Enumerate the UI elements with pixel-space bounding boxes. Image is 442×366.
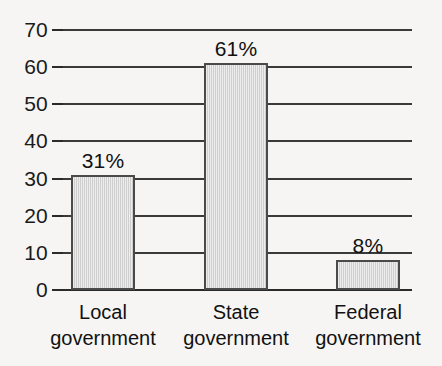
y-tick-mark xyxy=(52,66,63,68)
y-tick-label: 40 xyxy=(0,130,48,151)
y-tick-label: 20 xyxy=(0,205,48,226)
y-tick-label: 10 xyxy=(0,242,48,263)
bar-chart: 70 60 50 40 30 20 10 0 xyxy=(0,0,442,366)
y-tick-label: 70 xyxy=(0,19,48,40)
y-tick-label: 30 xyxy=(0,168,48,189)
y-tick-label: 60 xyxy=(0,56,48,77)
y-tick-mark xyxy=(52,215,63,217)
bar-value-state-government: 61% xyxy=(204,38,268,59)
y-tick-mark xyxy=(52,29,63,31)
x-label-line-2: government xyxy=(288,325,442,351)
bar-value-local-government: 31% xyxy=(71,150,135,171)
y-tick-mark xyxy=(52,103,63,105)
bar-federal-government xyxy=(336,260,400,290)
x-label-line-1: Federal xyxy=(288,299,442,325)
y-tick-mark xyxy=(52,252,63,254)
y-tick-mark xyxy=(52,178,63,180)
gridline xyxy=(63,29,412,31)
y-tick-label: 0 xyxy=(0,279,48,300)
bar-state-government xyxy=(204,63,268,290)
bar-local-government xyxy=(71,175,135,290)
bar-value-federal-government: 8% xyxy=(336,235,400,256)
x-label-federal-government: Federal government xyxy=(288,299,442,351)
y-tick-label: 50 xyxy=(0,93,48,114)
y-tick-mark xyxy=(52,140,63,142)
